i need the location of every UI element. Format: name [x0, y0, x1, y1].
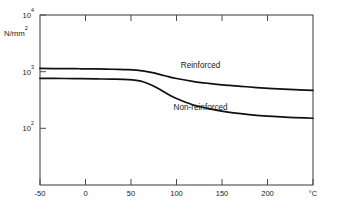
series-label-reinforced: Reinforced: [181, 61, 221, 70]
y-axis-label: N/mm2: [4, 25, 28, 38]
y-tick-label-4: 104: [23, 7, 34, 20]
x-tick-label-2: 50: [127, 189, 135, 198]
x-axis-ticks: [40, 179, 313, 185]
x-tick-label-1: 0: [83, 189, 87, 198]
x-axis-unit-label: °C: [309, 189, 318, 198]
y-tick-label-2: 102: [23, 120, 34, 133]
y-axis-ticks: [40, 15, 46, 128]
chart-container: -50 0 50 100 150 200 °C 104 103 102 N/mm…: [0, 0, 340, 215]
plot-frame: [40, 15, 313, 185]
x-tick-label-4: 150: [216, 189, 229, 198]
curve-non-reinforced: [40, 78, 313, 118]
x-tick-labels: -50 0 50 100 150 200: [35, 189, 274, 198]
x-tick-label-0: -50: [35, 189, 46, 198]
y-tick-label-3: 103: [23, 64, 34, 77]
series-label-non-reinforced: Non-reinforced: [174, 103, 229, 112]
x-tick-label-5: 200: [261, 189, 274, 198]
chart-canvas: -50 0 50 100 150 200 °C 104 103 102 N/mm…: [0, 0, 340, 215]
x-tick-label-3: 100: [170, 189, 183, 198]
x-axis-top-ticks: [86, 15, 268, 21]
